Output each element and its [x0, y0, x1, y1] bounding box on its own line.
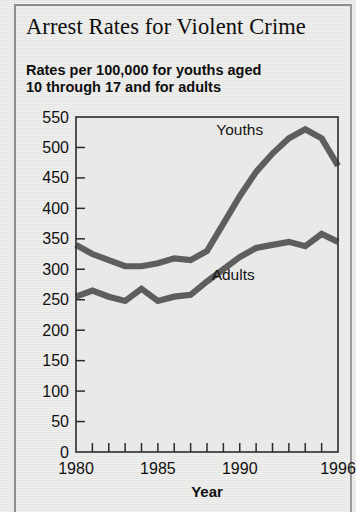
y-tick-label: 300: [42, 261, 69, 278]
y-tick-label: 50: [51, 413, 69, 430]
y-tick-label: 500: [42, 139, 69, 156]
series-label-youths: Youths: [216, 121, 263, 138]
y-tick-label: 350: [42, 230, 69, 247]
newspaper-page: Arrest Rates for Violent Crime Rates per…: [0, 0, 356, 512]
y-tick-label: 0: [60, 444, 69, 461]
y-tick-label: 400: [42, 200, 69, 217]
x-tick-label: 1980: [58, 460, 94, 477]
page-title: Arrest Rates for Violent Crime: [26, 14, 348, 40]
x-tick-label: 1990: [222, 460, 258, 477]
y-tick-label: 550: [42, 109, 69, 126]
series-label-adults: Adults: [212, 266, 255, 283]
y-tick-label: 150: [42, 352, 69, 369]
x-tick-label: 1985: [140, 460, 176, 477]
chart-canvas: 050100150200250300350400450500550 198019…: [0, 100, 356, 512]
y-tick-label: 200: [42, 322, 69, 339]
chart-subtitle-line-1: Rates per 100,000 for youths aged: [26, 62, 344, 79]
y-tick-label: 250: [42, 291, 69, 308]
x-axis-title: Year: [191, 483, 223, 500]
column-rule-top: [14, 4, 352, 6]
x-axis-tick-labels: 1980198519901996: [58, 460, 356, 477]
line-chart: 050100150200250300350400450500550 198019…: [0, 100, 356, 512]
chart-subtitle: Rates per 100,000 for youths aged 10 thr…: [26, 62, 344, 95]
y-axis-tick-labels: 050100150200250300350400450500550: [42, 109, 69, 461]
y-tick-label: 100: [42, 383, 69, 400]
y-tick-label: 450: [42, 169, 69, 186]
x-tick-label: 1996: [320, 460, 356, 477]
chart-subtitle-line-2: 10 through 17 and for adults: [26, 79, 344, 96]
